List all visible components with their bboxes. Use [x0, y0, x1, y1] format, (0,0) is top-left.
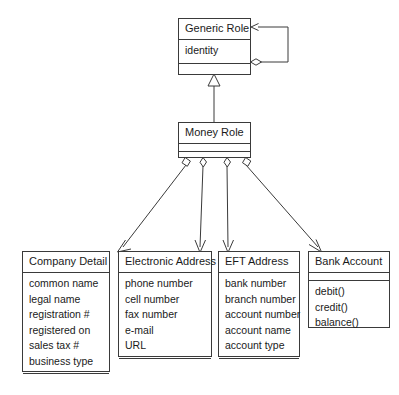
edge-money-role-electronic-address: [195, 158, 207, 253]
attribute-compartment: common name legal name registration # re…: [23, 273, 109, 374]
operation-item: credit(): [315, 300, 383, 316]
attribute-item: bank number: [225, 276, 293, 292]
attribute-item: fax number: [125, 307, 205, 323]
class-name-label: Generic Role: [185, 22, 244, 35]
attribute-compartment: [309, 273, 389, 281]
class-name-compartment: Generic Role: [179, 19, 250, 40]
operation-compartment: [179, 64, 250, 77]
class-name-compartment: EFT Address: [219, 252, 299, 273]
attribute-item: registered on: [29, 323, 103, 339]
attribute-item: sales tax #: [29, 338, 103, 354]
class-box-electronic-address[interactable]: Electronic Address phone number cell num…: [118, 251, 212, 357]
operation-compartment: [179, 152, 250, 160]
aggregation-diamond: [251, 59, 262, 65]
operation-compartment: debit() credit() balance(): [309, 281, 389, 335]
attribute-compartment: identity: [179, 40, 250, 64]
attribute-compartment: bank number branch number account number…: [219, 273, 299, 359]
class-box-bank-account[interactable]: Bank Account debit() credit() balance(): [308, 251, 390, 328]
attribute-item: branch number: [225, 292, 293, 308]
operation-item: debit(): [315, 284, 383, 300]
attribute-item: account number: [225, 307, 293, 323]
attribute-item: registration #: [29, 307, 103, 323]
class-name-compartment: Electronic Address: [119, 252, 211, 273]
attribute-item: identity: [185, 43, 244, 59]
attribute-item: common name: [29, 276, 103, 292]
uml-class-diagram: Generic Role identity Money Role Company…: [0, 0, 399, 395]
attribute-compartment: [179, 144, 250, 152]
class-name-label: Electronic Address: [125, 255, 205, 268]
class-name-label: Company Detail: [29, 255, 103, 268]
edge-money-role-generalization: [208, 74, 220, 122]
class-box-eft-address[interactable]: EFT Address bank number branch number ac…: [218, 251, 300, 357]
class-box-generic-role[interactable]: Generic Role identity: [178, 18, 251, 75]
attribute-item: account name: [225, 323, 293, 339]
class-name-label: Money Role: [185, 126, 244, 139]
operation-compartment: [219, 359, 299, 372]
attribute-item: cell number: [125, 292, 205, 308]
class-name-label: Bank Account: [315, 255, 383, 268]
operation-compartment: [119, 359, 211, 372]
operation-item: balance(): [315, 315, 383, 331]
attribute-item: legal name: [29, 292, 103, 308]
class-name-compartment: Company Detail: [23, 252, 109, 273]
attribute-item: account type: [225, 338, 293, 354]
class-box-money-role[interactable]: Money Role: [178, 122, 251, 158]
operation-compartment: [23, 374, 109, 387]
edge-money-role-bank-account: [243, 158, 322, 253]
attribute-compartment: phone number cell number fax number e-ma…: [119, 273, 211, 359]
edge-money-role-company-detail: [118, 158, 191, 253]
attribute-item: e-mail: [125, 323, 205, 339]
class-name-compartment: Money Role: [179, 123, 250, 144]
attribute-item: business type: [29, 354, 103, 370]
edge-generic-role-self-aggregation: [251, 24, 289, 66]
open-arrowhead: [251, 24, 259, 31]
attribute-item: URL: [125, 338, 205, 354]
attribute-item: phone number: [125, 276, 205, 292]
edge-money-role-eft-address: [223, 158, 234, 253]
class-name-label: EFT Address: [225, 255, 293, 268]
class-box-company-detail[interactable]: Company Detail common name legal name re…: [22, 251, 110, 372]
class-name-compartment: Bank Account: [309, 252, 389, 273]
